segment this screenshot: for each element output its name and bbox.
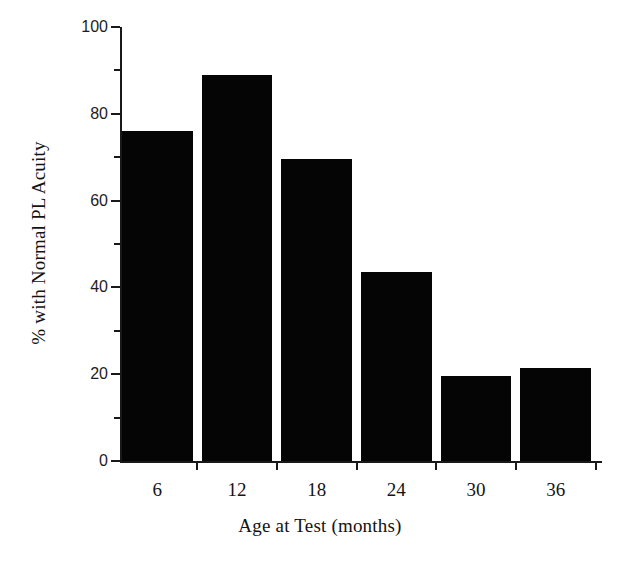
bar [441,376,512,461]
x-tick [356,461,358,470]
y-tick-major [111,373,120,375]
bar [202,75,273,461]
y-tick-minor [114,156,120,158]
x-tick [196,461,198,470]
x-axis-line [120,461,602,463]
bar-chart-figure: % with Normal PL Acuity 020406080100 612… [0,0,640,572]
x-tick [276,461,278,470]
x-tick-label: 30 [467,479,486,501]
x-tick [595,461,597,470]
y-tick-major [111,26,120,28]
bar [520,368,591,461]
y-tick-minor [114,69,120,71]
y-tick-major [111,460,120,462]
x-tick-label: 36 [546,479,565,501]
y-tick-label: 80 [90,105,108,123]
x-tick [515,461,517,470]
x-tick-label: 6 [153,479,163,501]
y-tick-label: 0 [99,452,108,470]
y-tick-minor [114,330,120,332]
y-tick-major [111,113,120,115]
y-tick-minor [114,417,120,419]
y-axis-title: % with Normal PL Acuity [22,23,56,463]
y-tick-label: 60 [90,192,108,210]
y-tick-label: 40 [90,278,108,296]
bar [361,272,432,461]
bar [122,131,193,461]
plot-area: 020406080100 61218243036 [122,27,600,461]
y-tick-label: 100 [81,18,108,36]
bar [281,159,352,461]
y-tick-major [111,286,120,288]
x-tick [435,461,437,470]
x-tick-label: 12 [228,479,247,501]
x-axis-title: Age at Test (months) [0,515,640,537]
x-tick-label: 24 [387,479,406,501]
y-tick-label: 20 [90,365,108,383]
y-tick-major [111,200,120,202]
x-tick-label: 18 [307,479,326,501]
y-tick-minor [114,243,120,245]
